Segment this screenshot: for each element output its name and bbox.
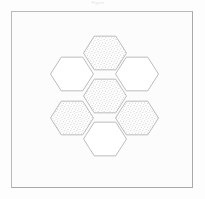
hexagon-fill-bottom-center [84, 122, 127, 156]
hexagon-fill-lower-left [51, 101, 94, 135]
hexagon-fill-upper-right [116, 57, 159, 91]
hexagon-fill-top-center [84, 36, 127, 70]
hexagon-fill-center [84, 79, 127, 113]
hexagon-fill-upper-left [51, 57, 94, 91]
hexagon-group [51, 36, 159, 156]
hexagon-fill-lower-right [116, 101, 159, 135]
hexagon-tiling-diagram [0, 0, 205, 199]
figure-screenshot: Figure [0, 0, 205, 199]
